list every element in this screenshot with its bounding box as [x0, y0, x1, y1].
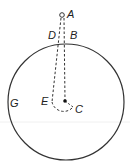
label-c: C: [75, 103, 83, 115]
point-a-marker: [60, 13, 65, 18]
label-a: A: [66, 8, 74, 20]
label-g: G: [10, 97, 19, 109]
label-d: D: [48, 29, 56, 41]
dashed-line-a-to-center: [64, 18, 65, 100]
label-b: B: [70, 29, 77, 41]
center-dot: [63, 99, 67, 103]
label-e: E: [41, 95, 49, 107]
dashed-arc-e-to-c: [52, 102, 73, 111]
diagram-canvas: A D B G E C: [0, 0, 130, 168]
